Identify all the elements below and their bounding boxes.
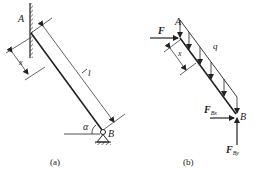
label-length: l	[88, 68, 91, 78]
caption-a: (a)	[50, 157, 60, 167]
length-dimension	[31, 18, 125, 130]
label-x-b: x	[177, 49, 182, 58]
label-a: A	[17, 13, 25, 24]
wall-support	[30, 3, 33, 58]
label-b-b: B	[240, 111, 246, 122]
diagram-canvas: A l x α B (a)	[0, 0, 258, 185]
distributed-load-arrows	[180, 20, 237, 113]
distributed-load-boundary	[180, 20, 237, 97]
label-alpha: α	[83, 121, 89, 132]
label-fby: FBy	[225, 144, 239, 156]
label-b: B	[108, 128, 114, 139]
rod	[31, 33, 102, 130]
label-q: q	[213, 41, 218, 51]
label-x: x	[18, 58, 23, 67]
angle-arc	[92, 125, 96, 134]
label-fbx: FBx	[203, 104, 217, 116]
label-f: F	[157, 25, 165, 36]
panel-a: A l x α B (a)	[6, 3, 125, 167]
rod-free-body	[180, 38, 236, 114]
label-a-b: A	[174, 16, 182, 27]
caption-b: (b)	[183, 157, 194, 167]
panel-b: A q F x FBx FBy B (b)	[150, 16, 246, 167]
